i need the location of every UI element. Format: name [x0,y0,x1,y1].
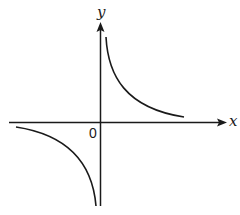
x-axis-label: x [229,114,237,129]
origin-label: 0 [89,126,97,140]
y-axis-label: y [97,5,105,20]
hyperbola-graph [0,0,240,215]
hyperbola-branch-third-quadrant [16,127,96,206]
hyperbola-branch-first-quadrant [106,37,184,117]
